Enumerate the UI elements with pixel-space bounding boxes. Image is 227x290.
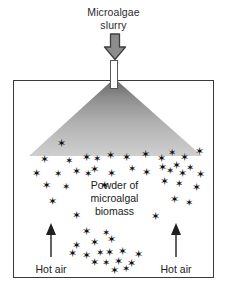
- powder-particle: ✶: [54, 169, 62, 179]
- powder-particle: ✶: [107, 168, 116, 179]
- powder-particle: ✶: [72, 166, 81, 177]
- powder-particle: ✶: [158, 162, 167, 173]
- powder-particle: ✶: [172, 160, 181, 171]
- powder-particle: ✶: [110, 265, 119, 276]
- powder-particle: ✶: [107, 234, 116, 245]
- inlet-label: Microalgae slurry: [0, 6, 227, 31]
- powder-particle: ✶: [32, 168, 41, 179]
- powder-particle: ✶: [186, 163, 194, 173]
- powder-particle: ✶: [118, 246, 127, 257]
- up-arrow-icon: [19, 222, 83, 262]
- powder-particle: ✶: [166, 166, 174, 176]
- powder-particle: ✶: [195, 146, 204, 157]
- powder-particle: ✶: [122, 152, 131, 163]
- powder-particle: ✶: [105, 247, 114, 258]
- hot-air-inlet-right: Hot air: [144, 222, 208, 275]
- powder-particle: ✶: [82, 152, 91, 163]
- powder-particle: ✶: [157, 153, 166, 164]
- spray-nozzle-icon: [110, 60, 118, 89]
- powder-particle: ✶: [141, 149, 150, 160]
- powder-particle: ✶: [90, 257, 99, 268]
- powder-particle: ✶: [84, 169, 92, 179]
- powder-particle: ✶: [180, 152, 189, 163]
- powder-particle: ✶: [168, 148, 176, 158]
- powder-particle: ✶: [90, 164, 99, 175]
- powder-particle: ✶: [127, 258, 136, 269]
- spray-dryer-diagram: Microalgae slurry Powder of microalgal b…: [0, 0, 227, 290]
- powder-particle: ✶: [134, 249, 143, 260]
- powder-particle: ✶: [96, 248, 104, 258]
- powder-label: Powder of microalgal biomass: [14, 179, 214, 218]
- hot-air-label-right: Hot air: [144, 263, 208, 275]
- powder-particle: ✶: [178, 168, 187, 179]
- powder-particle: ✶: [40, 154, 49, 165]
- up-arrow-icon: [144, 222, 208, 262]
- powder-particle: ✶: [114, 256, 123, 267]
- hot-air-inlet-left: Hot air: [19, 222, 83, 275]
- powder-particle: ✶: [106, 150, 115, 161]
- powder-particle: ✶: [196, 169, 205, 180]
- powder-particle: ✶: [102, 228, 110, 238]
- powder-particle: ✶: [142, 167, 151, 178]
- powder-particle: ✶: [57, 138, 66, 149]
- spray-drying-chamber: Powder of microalgal biomass ✶✶✶✶✶✶✶✶✶✶✶…: [13, 80, 214, 278]
- hot-air-label-left: Hot air: [19, 263, 83, 275]
- powder-particle: ✶: [122, 264, 130, 274]
- powder-particle: ✶: [65, 156, 73, 166]
- powder-particle: ✶: [102, 258, 110, 268]
- powder-particle: ✶: [93, 154, 101, 164]
- powder-particle: ✶: [90, 237, 99, 248]
- powder-particle: ✶: [128, 164, 136, 174]
- down-block-arrow-icon: [103, 33, 127, 61]
